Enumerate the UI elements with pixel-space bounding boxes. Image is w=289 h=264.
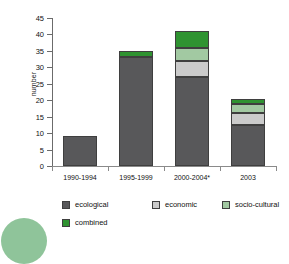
bar-segment-socio-cultural[interactable] <box>231 104 265 114</box>
bar-segment-economic[interactable] <box>231 113 265 125</box>
bar-2000-2004-[interactable] <box>175 18 209 166</box>
y-tick-label: 45 <box>0 14 44 23</box>
x-axis-label: 1990-1994 <box>52 174 108 181</box>
legend-swatch-icon <box>62 219 70 227</box>
y-tick-label: 25 <box>0 80 44 89</box>
legend-swatch-icon <box>152 201 160 209</box>
bar-segment-combined[interactable] <box>231 99 265 104</box>
bar-segment-combined[interactable] <box>175 31 209 47</box>
bar-segment-ecological[interactable] <box>119 57 153 166</box>
bar-segment-ecological[interactable] <box>231 125 265 166</box>
y-tick-label: 0 <box>0 162 44 171</box>
chart-legend: ecologicaleconomicsocio-culturalcombined <box>0 198 289 246</box>
bar-segment-ecological[interactable] <box>63 136 97 166</box>
legend-swatch-icon <box>62 201 70 209</box>
bar-segment-ecological[interactable] <box>175 77 209 166</box>
y-tick-label: 30 <box>0 63 44 72</box>
bar-segment-combined[interactable] <box>119 51 153 58</box>
y-tick-label: 35 <box>0 47 44 56</box>
x-axis-label: 1995-1999 <box>108 174 164 181</box>
legend-label: economic <box>165 200 197 209</box>
y-tick-label: 5 <box>0 146 44 155</box>
bar-segment-socio-cultural[interactable] <box>175 48 209 61</box>
x-tick-mark <box>220 166 221 171</box>
y-tick-label: 40 <box>0 30 44 39</box>
legend-row: ecologicaleconomicsocio-cultural <box>0 198 289 214</box>
legend-item-socio-cultural[interactable]: socio-cultural <box>222 200 279 209</box>
x-axis-label: 2000-2004* <box>164 174 220 181</box>
x-tick-mark <box>276 166 277 171</box>
bars-layer <box>52 18 276 166</box>
x-tick-mark <box>52 166 53 171</box>
x-tick-mark <box>108 166 109 171</box>
x-tick-mark <box>164 166 165 171</box>
legend-row: combined <box>0 216 289 232</box>
bar-segment-economic[interactable] <box>175 61 209 77</box>
legend-item-ecological[interactable]: ecological <box>62 200 108 209</box>
legend-item-economic[interactable]: economic <box>152 200 197 209</box>
y-tick-label: 20 <box>0 96 44 105</box>
x-axis-label: 2003 <box>220 174 276 181</box>
bar-1995-1999[interactable] <box>119 18 153 166</box>
legend-label: combined <box>75 218 108 227</box>
legend-swatch-icon <box>222 201 230 209</box>
legend-item-combined[interactable]: combined <box>62 218 108 227</box>
y-tick-label: 10 <box>0 129 44 138</box>
y-tick-label: 15 <box>0 113 44 122</box>
legend-label: socio-cultural <box>235 200 279 209</box>
legend-label: ecological <box>75 200 108 209</box>
bar-2003[interactable] <box>231 18 265 166</box>
bar-1990-1994[interactable] <box>63 18 97 166</box>
plot-area: number 051015202530354045 1990-19941995-… <box>0 0 289 196</box>
